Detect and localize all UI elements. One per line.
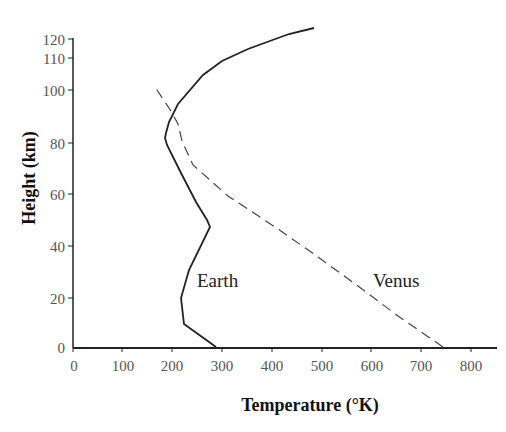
earth-line xyxy=(165,28,314,347)
svg-text:100: 100 xyxy=(112,358,135,374)
svg-text:400: 400 xyxy=(261,358,284,374)
svg-text:200: 200 xyxy=(161,358,184,374)
x-tick-labels: 0 100 200 300 400 500 600 700 800 xyxy=(70,358,482,374)
svg-text:60: 60 xyxy=(50,187,65,203)
svg-text:300: 300 xyxy=(211,358,234,374)
x-axis-title: Temperature (°K) xyxy=(241,395,379,416)
y-tick-labels: 120 110 100 80 60 40 20 0 xyxy=(43,32,66,356)
svg-text:800: 800 xyxy=(460,358,483,374)
venus-label: Venus xyxy=(373,270,419,291)
earth-label: Earth xyxy=(197,270,239,291)
svg-text:500: 500 xyxy=(311,358,334,374)
svg-text:20: 20 xyxy=(50,291,65,307)
svg-text:0: 0 xyxy=(58,340,66,356)
svg-text:700: 700 xyxy=(410,358,433,374)
chart: 120 110 100 80 60 40 20 0 0 100 200 300 … xyxy=(0,0,506,432)
svg-text:120: 120 xyxy=(43,32,66,48)
svg-text:0: 0 xyxy=(70,358,78,374)
svg-text:600: 600 xyxy=(361,358,384,374)
svg-text:40: 40 xyxy=(50,239,65,255)
svg-text:110: 110 xyxy=(43,51,65,67)
venus-line xyxy=(155,87,443,347)
svg-text:100: 100 xyxy=(43,83,66,99)
y-axis-title: Height (km) xyxy=(19,131,40,225)
svg-text:80: 80 xyxy=(50,136,65,152)
